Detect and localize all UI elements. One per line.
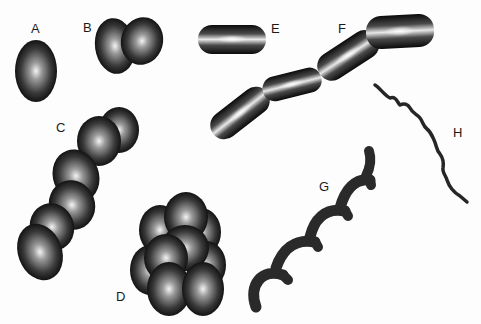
staphylococcus-cluster-d xyxy=(130,192,226,316)
bacillus-e xyxy=(198,25,266,54)
spirillum-g xyxy=(254,151,371,307)
spirochete-h xyxy=(375,85,467,202)
coccus-a xyxy=(15,40,57,102)
label-b: B xyxy=(83,21,92,34)
label-f: F xyxy=(338,22,346,35)
label-e: E xyxy=(271,22,280,35)
label-h: H xyxy=(453,126,462,139)
label-g: G xyxy=(319,180,329,193)
label-c: C xyxy=(56,121,65,134)
streptococcus-chain-c xyxy=(9,107,139,287)
diagram-canvas xyxy=(0,0,481,324)
diplococcus-b xyxy=(91,12,168,76)
label-d: D xyxy=(116,290,125,303)
bacteria-morphology-diagram: A B C D E F G H xyxy=(0,0,481,324)
label-a: A xyxy=(31,22,40,35)
